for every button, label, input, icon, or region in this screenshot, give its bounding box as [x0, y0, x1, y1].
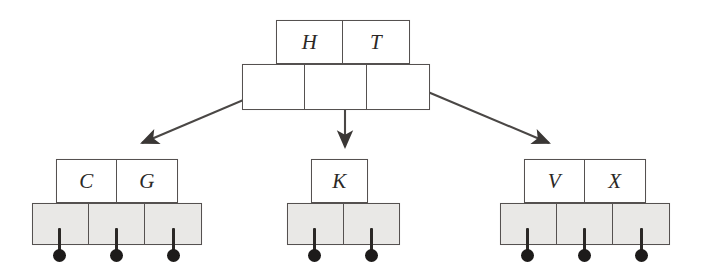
null-pointer-dot: [578, 249, 591, 262]
left-child-pointer-1: [89, 204, 145, 244]
null-pointer-dot: [53, 249, 66, 262]
root-pointer-row: [242, 64, 430, 110]
right-child-key-label-0: V: [548, 169, 561, 194]
root-key-cell-0: H: [277, 21, 343, 63]
root-pointer-0: [243, 65, 305, 109]
left-child-pointer-0: [33, 204, 89, 244]
root-key-label-1: T: [370, 30, 382, 55]
root-key-row: H T: [276, 20, 410, 64]
root-key-label-0: H: [302, 30, 318, 55]
null-pointer-dot: [521, 249, 534, 262]
middle-child-key-row: K: [311, 159, 368, 203]
middle-child-pointer-0: [288, 204, 344, 244]
left-child-pointer-row: [32, 203, 202, 245]
root-pointer-2: [367, 65, 429, 109]
right-child-pointer-2: [613, 204, 669, 244]
right-child-pointer-1: [557, 204, 613, 244]
middle-child-pointer-row: [287, 203, 400, 245]
btree-figure: H T C G: [0, 0, 719, 280]
null-pointer-dot: [635, 249, 648, 262]
middle-child-key-label-0: K: [332, 169, 347, 194]
left-child-key-cell-0: C: [57, 160, 117, 202]
null-pointer-dot: [308, 249, 321, 262]
root-pointer-1: [305, 65, 367, 109]
right-child-key-row: V X: [524, 159, 646, 203]
left-child-pointer-2: [145, 204, 201, 244]
edge-root-to-right: [428, 92, 549, 143]
null-pointer-dot: [110, 249, 123, 262]
left-child-key-row: C G: [56, 159, 178, 203]
left-child-key-label-0: C: [79, 169, 94, 194]
root-key-cell-1: T: [343, 21, 409, 63]
right-child-key-cell-1: X: [585, 160, 645, 202]
middle-child-pointer-1: [344, 204, 399, 244]
right-child-pointer-row: [500, 203, 670, 245]
right-child-key-cell-0: V: [525, 160, 585, 202]
right-child-key-label-1: X: [608, 169, 621, 194]
middle-child-key-cell-0: K: [312, 160, 367, 202]
right-child-pointer-0: [501, 204, 557, 244]
null-pointer-dot: [167, 249, 180, 262]
left-child-key-label-1: G: [139, 169, 155, 194]
null-pointer-dot: [365, 249, 378, 262]
left-child-key-cell-1: G: [117, 160, 177, 202]
